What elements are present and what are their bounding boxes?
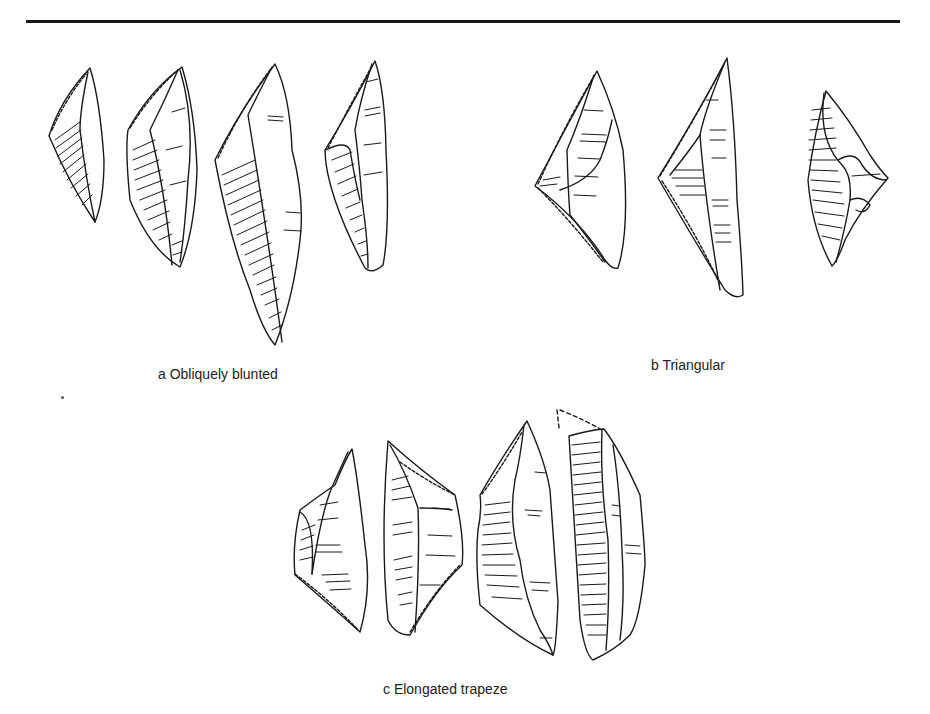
microlith-c1 [294, 449, 367, 632]
microlith-a2 [127, 67, 197, 267]
microlith-b2 [658, 58, 743, 297]
group-b-drawings [535, 58, 888, 297]
microlith-c2 [384, 441, 463, 635]
caption-a-obliquely-blunted: a Obliquely blunted [158, 366, 278, 382]
microlith-c4 [557, 410, 645, 660]
group-c-drawings [294, 410, 645, 660]
microlith-a1 [49, 68, 104, 222]
caption-b-triangular: b Triangular [651, 357, 725, 373]
microlith-b1 [535, 71, 626, 268]
microlith-b3 [808, 91, 888, 266]
microlith-illustrations [0, 0, 930, 714]
microlith-a3 [215, 64, 301, 345]
microlith-a4 [325, 61, 387, 271]
microlith-c3 [477, 421, 558, 655]
caption-c-elongated-trapeze: c Elongated trapeze [383, 681, 508, 697]
group-a-drawings [49, 61, 387, 345]
